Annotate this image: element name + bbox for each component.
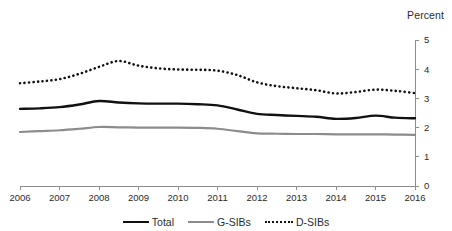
x-axis-tick-label: 2007 (49, 192, 70, 203)
series-line-total (20, 101, 415, 119)
y-axis-tick-label: 5 (424, 34, 429, 45)
x-axis-tick-label: 2009 (128, 192, 149, 203)
x-axis-tick-label: 2011 (207, 192, 227, 203)
chart-container: Percent 012345 2006200720082009201020112… (0, 0, 452, 231)
legend-label-total: Total (152, 217, 174, 228)
x-axis-tick-label: 2006 (9, 192, 30, 203)
x-axis: 2006200720082009201020112012201320142015… (9, 186, 425, 203)
legend-item-gsibs[interactable]: G-SIBs (188, 217, 251, 228)
y-axis-tick-label: 3 (424, 93, 429, 104)
x-axis-tick-label: 2013 (286, 192, 307, 203)
x-axis-tick-label: 2015 (365, 192, 386, 203)
legend-item-total[interactable]: Total (123, 217, 174, 228)
series-line-d-sibs (20, 61, 415, 93)
line-chart-plot: 012345 200620072008200920102011201220132… (0, 0, 452, 231)
x-axis-tick-label: 2016 (404, 192, 425, 203)
legend-item-dsibs[interactable]: D-SIBs (265, 217, 329, 228)
series-line-g-sibs (20, 127, 415, 135)
legend-label-dsibs: D-SIBs (296, 217, 329, 228)
legend-swatch-dsibs-icon (265, 221, 293, 223)
y-axis-tick-label: 0 (424, 180, 429, 191)
x-axis-tick-label: 2014 (325, 192, 346, 203)
y-axis: 012345 (415, 34, 429, 191)
y-axis-tick-label: 2 (424, 122, 429, 133)
y-axis-tick-label: 4 (424, 64, 429, 75)
x-axis-tick-label: 2010 (167, 192, 188, 203)
legend-swatch-gsibs-icon (188, 221, 214, 223)
chart-legend: Total G-SIBs D-SIBs (0, 217, 452, 228)
x-axis-tick-label: 2012 (246, 192, 267, 203)
x-axis-tick-label: 2008 (88, 192, 109, 203)
y-axis-tick-label: 1 (424, 151, 429, 162)
legend-swatch-total-icon (123, 221, 149, 223)
legend-label-gsibs: G-SIBs (217, 217, 251, 228)
data-series-group (20, 61, 415, 135)
